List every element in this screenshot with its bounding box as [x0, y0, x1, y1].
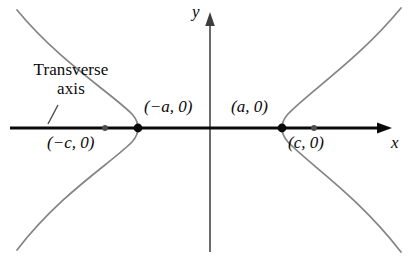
transverse-axis-leader-line — [48, 105, 58, 124]
focus-left-dot — [102, 125, 108, 131]
transverse-axis-label-line2: axis — [8, 79, 134, 98]
vertex-left-dot — [134, 124, 143, 133]
focus-right-label: (c, 0) — [288, 133, 324, 152]
hyperbola-figure: Transverse axis (−a, 0) (a, 0) (−c, 0) (… — [0, 0, 410, 266]
transverse-axis-label-line1: Transverse — [34, 60, 109, 79]
transverse-axis-label: Transverse axis — [8, 60, 134, 98]
vertex-right-dot — [278, 124, 287, 133]
y-axis-label: y — [192, 2, 200, 21]
y-axis — [205, 12, 215, 252]
hyperbola-left-branch — [17, 10, 138, 250]
x-axis — [10, 123, 392, 134]
x-axis-label: x — [391, 133, 399, 152]
focus-left-label: (−c, 0) — [47, 133, 94, 152]
y-axis-arrowhead — [205, 12, 215, 26]
vertex-right-label: (a, 0) — [231, 97, 268, 116]
x-axis-arrowhead — [377, 123, 392, 134]
focus-right-dot — [311, 125, 317, 131]
vertex-left-label: (−a, 0) — [144, 97, 192, 116]
